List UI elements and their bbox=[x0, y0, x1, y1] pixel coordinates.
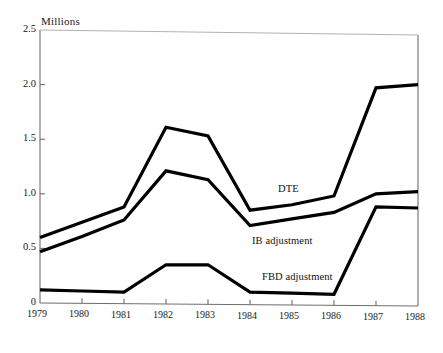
x-tick-label: 1980 bbox=[69, 308, 89, 319]
y-tick-label: 1.5 bbox=[6, 132, 36, 143]
series-label-ib-adjustment: IB adjustment bbox=[252, 235, 313, 246]
chart-figure: Millions 00.51.01.52.02.5 19791980198119… bbox=[0, 0, 443, 353]
y-tick-label: 1.0 bbox=[6, 187, 36, 198]
x-tick-label: 1982 bbox=[153, 309, 173, 320]
data-series-lines bbox=[40, 85, 418, 295]
x-tick-label: 1985 bbox=[279, 310, 299, 321]
y-tick-label: 0 bbox=[6, 296, 36, 307]
x-tick-label: 1988 bbox=[405, 311, 425, 322]
series-label-dte: DTE bbox=[278, 183, 299, 194]
x-tick-label: 1986 bbox=[321, 310, 341, 321]
y-tick-label: 2.5 bbox=[6, 23, 36, 34]
plot-frame bbox=[40, 30, 418, 306]
x-tick-label: 1979 bbox=[27, 308, 47, 319]
x-tick-label: 1983 bbox=[195, 309, 215, 320]
x-tick-label: 1984 bbox=[237, 310, 257, 321]
x-tick-label: 1981 bbox=[111, 309, 131, 320]
y-axis-title: Millions bbox=[41, 15, 80, 27]
x-tick-label: 1987 bbox=[363, 311, 383, 322]
series-label-fbd-adjustment: FBD adjustment bbox=[262, 271, 333, 282]
y-tick-label: 0.5 bbox=[6, 241, 36, 252]
y-tick-label: 2.0 bbox=[6, 78, 36, 89]
chart-canvas bbox=[0, 0, 443, 353]
